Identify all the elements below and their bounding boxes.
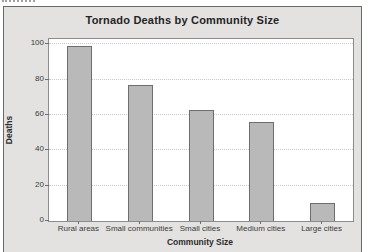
- x-axis-title: Community Size: [48, 237, 352, 247]
- cropped-dotted-artifact: [2, 0, 35, 2]
- screenshot-stage: Tornado Deaths by Community Size 0204060…: [0, 0, 368, 252]
- y-tick-mark-40: [45, 149, 49, 150]
- bar-small-communities: [128, 85, 153, 221]
- y-tick-label-100: 100: [4, 38, 44, 48]
- y-tick-mark-80: [45, 79, 49, 80]
- chart-title: Tornado Deaths by Community Size: [4, 14, 361, 26]
- gridline-y-100: [49, 43, 353, 44]
- y-tick-mark-100: [45, 43, 49, 44]
- bar-medium-cities: [249, 122, 274, 221]
- x-cat-label-large-cities: Large cities: [301, 224, 342, 233]
- chart-window: Tornado Deaths by Community Size 0204060…: [3, 6, 362, 252]
- y-tick-mark-0: [45, 220, 49, 221]
- plot-area: [48, 38, 354, 222]
- x-cat-label-medium-cities: Medium cities: [236, 224, 285, 233]
- y-tick-mark-20: [45, 185, 49, 186]
- gridline-y-80: [49, 79, 353, 80]
- y-tick-label-0: 0: [4, 215, 44, 225]
- x-cat-label-small-communities: Small communities: [106, 224, 173, 233]
- x-cat-label-rural-areas: Rural areas: [58, 224, 99, 233]
- y-tick-mark-60: [45, 114, 49, 115]
- bar-small-cities: [189, 110, 214, 221]
- bar-large-cities: [310, 203, 335, 221]
- bar-rural-areas: [67, 46, 92, 221]
- y-axis-title: Deaths: [4, 70, 16, 190]
- x-cat-label-small-cities: Small cities: [180, 224, 220, 233]
